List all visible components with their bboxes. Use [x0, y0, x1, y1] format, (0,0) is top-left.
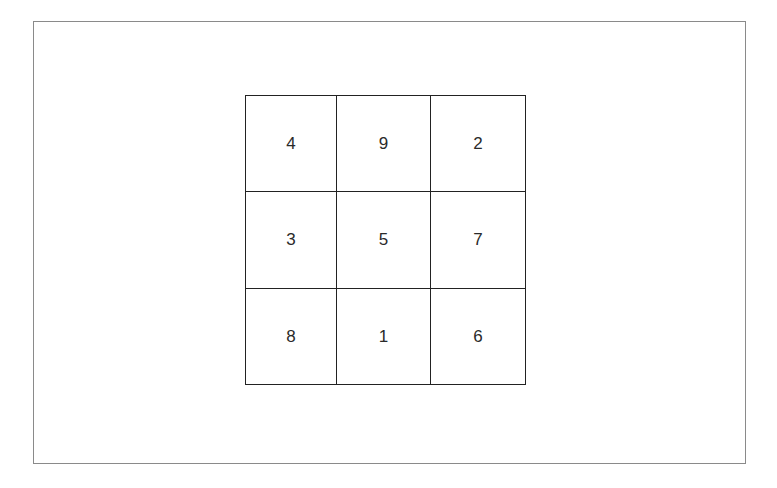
- grid-cell-r2-c3: 7: [431, 192, 525, 289]
- grid-cell-r2-c1: 3: [246, 192, 337, 289]
- grid-cell-r1-c2: 9: [337, 96, 431, 192]
- grid-cell-r3-c1: 8: [246, 289, 337, 384]
- grid-cell-r1-c1: 4: [246, 96, 337, 192]
- magic-square-grid: 4 9 2 3 5 7 8 1 6: [245, 95, 526, 385]
- grid-cell-r3-c3: 6: [431, 289, 525, 384]
- grid-cell-r3-c2: 1: [337, 289, 431, 384]
- grid-cell-r2-c2: 5: [337, 192, 431, 289]
- grid-cell-r1-c3: 2: [431, 96, 525, 192]
